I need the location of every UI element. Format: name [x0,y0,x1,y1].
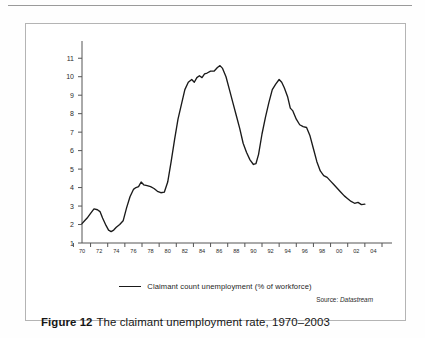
y-tick-label: 7 [70,129,74,136]
unemployment-line-chart: 1234567891011 70727476788082848688909294… [26,24,405,276]
source-name: Datastream [340,296,373,303]
y-tick-label: 10 [66,73,74,80]
figure-caption: Figure 12The claimant unemployment rate,… [41,316,330,328]
series-line-claimant-count [82,66,365,232]
y-tick-label: 3 [70,203,74,210]
x-tick-label: 70 [79,248,85,254]
y-tick-label: 4 [70,184,74,191]
x-tick-label: 94 [285,248,291,254]
x-tick-label: 72 [96,248,102,254]
x-tick-label: 00 [336,248,342,254]
figure-page: 1234567891011 70727476788082848688909294… [0,0,425,338]
y-tick-label: 2 [70,221,74,228]
caption-separator [26,310,405,311]
y-tick-label: 8 [70,110,74,117]
x-tick-label: 78 [147,248,153,254]
data-series-group [82,66,365,232]
x-tick-label: 84 [199,248,205,254]
caption-text: The claimant unemployment rate, 1970–200… [97,316,330,328]
x-tick-label: 04 [370,248,376,254]
x-tick-label: 02 [353,248,359,254]
y-tick-label: 6 [70,147,74,154]
y-axis: 1234567891011 [66,41,82,247]
x-tick-label: 92 [267,248,273,254]
x-tick-label: 96 [302,248,308,254]
y-tick-label: 9 [70,92,74,99]
y-tick-label: 5 [70,166,74,173]
x-tick-label: 98 [319,248,325,254]
x-tick-label: 74 [113,248,119,254]
caption-label: Figure 12 [41,316,93,328]
page-top-rule [8,5,412,6]
x-tick-label: 82 [182,248,188,254]
x-axis: 707274767880828486889092949698000204 [73,243,392,254]
chart-source: Source: Datastream [316,296,373,303]
legend-line-swatch [119,286,141,287]
source-prefix: Source: [316,296,338,303]
x-tick-label: 80 [165,248,171,254]
x-tick-label: 76 [130,248,136,254]
chart-legend: Claimant count unemployment (% of workfo… [26,282,405,291]
legend-item-label: Claimant count unemployment (% of workfo… [147,282,311,291]
x-tick-label: 86 [216,248,222,254]
chart-plot-area: 1234567891011 70727476788082848688909294… [26,24,405,276]
x-tick-label: 88 [233,248,239,254]
y-tick-label: 11 [67,55,74,62]
figure-container: 1234567891011 70727476788082848688909294… [25,23,406,321]
x-tick-label: 90 [250,248,256,254]
